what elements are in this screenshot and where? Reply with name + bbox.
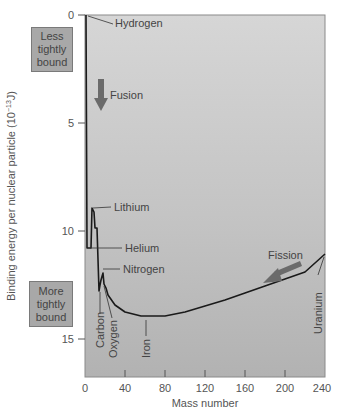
label-fusion: Fusion (110, 89, 143, 101)
plot-area (85, 15, 325, 377)
label-uranium: Uranium (312, 292, 324, 334)
x-tick-label: 240 (313, 382, 331, 394)
less-tightly-bound-box: Less tightly bound (31, 27, 73, 72)
label-oxygen: Oxygen (107, 320, 119, 358)
label-nitrogen: Nitrogen (123, 263, 165, 275)
x-tick-label: 40 (119, 382, 131, 394)
x-tick-label: 160 (236, 382, 254, 394)
label-carbon: Carbon (94, 312, 106, 348)
box-text: bound (37, 56, 68, 69)
box-text: tightly (37, 43, 68, 56)
x-axis-title: Mass number (172, 397, 239, 409)
box-text: tightly (36, 298, 67, 311)
y-tick-label: 10 (62, 225, 74, 237)
x-tick-label: 120 (196, 382, 214, 394)
box-text: More (36, 285, 67, 298)
x-tick-label: 80 (159, 382, 171, 394)
y-tick-label: 5 (68, 117, 74, 129)
label-fission: Fission (268, 249, 303, 261)
y-tick-label: 0 (68, 9, 74, 21)
more-tightly-bound-box: More tightly bound (29, 281, 73, 327)
x-tick-label: 0 (82, 382, 88, 394)
label-helium: Helium (125, 242, 159, 254)
box-text: Less (37, 30, 68, 43)
label-hydrogen: Hydrogen (115, 17, 163, 29)
box-text: bound (36, 311, 67, 324)
y-tick-label: 15 (62, 333, 74, 345)
label-iron: Iron (140, 339, 152, 358)
label-lithium: Lithium (114, 201, 149, 213)
x-tick-label: 200 (276, 382, 294, 394)
y-axis-title: Binding energy per nuclear particle (10−… (5, 91, 17, 301)
